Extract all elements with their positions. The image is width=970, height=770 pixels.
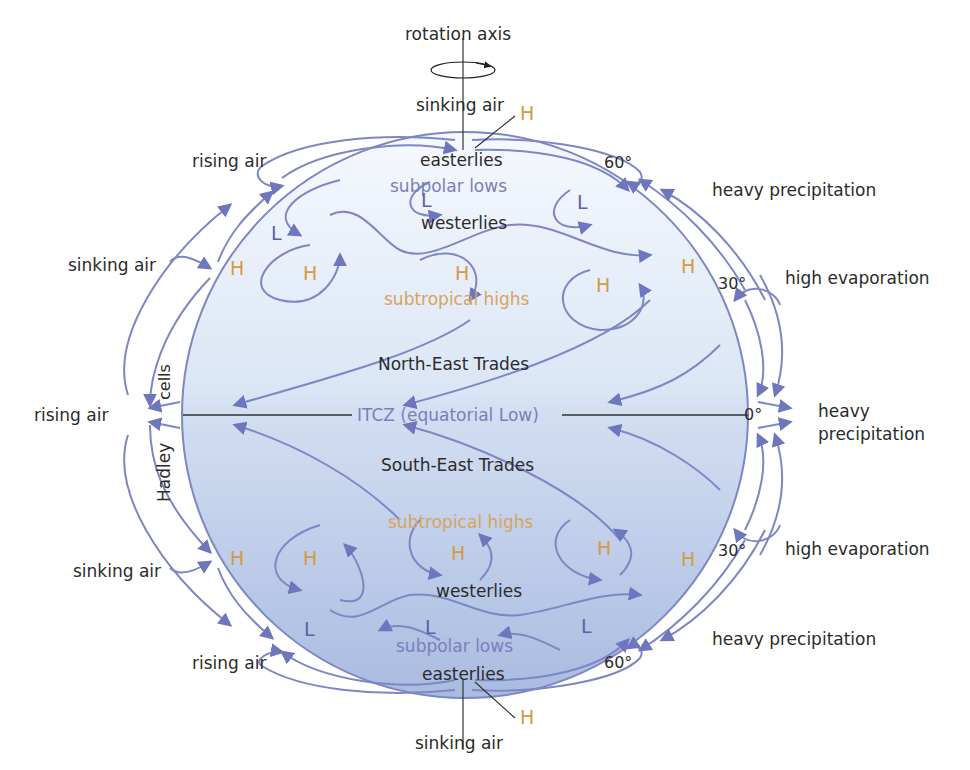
zone-south-easterlies: easterlies [422,664,505,684]
zone-north-westerlies: westerlies [421,213,507,233]
label-hadley-cells-bottom: Hadley [154,443,174,502]
lat-s60: 60° [604,653,632,672]
low-marker: L [577,191,588,213]
high-marker: H [303,262,317,284]
low-marker: L [581,615,592,637]
low-marker: L [421,189,432,211]
low-marker: L [425,616,436,638]
high-marker: H [597,537,611,559]
high-marker: H [451,542,465,564]
zone-itcz: ITCZ (equatorial Low) [357,405,539,425]
zone-south-subtropical-highs: subtropical highs [388,512,534,532]
low-marker: L [271,222,282,244]
bottom-high-marker: H [520,706,534,728]
lat-s30: 30° [718,541,746,560]
high-marker: H [455,262,469,284]
zone-south-east-trades: South-East Trades [381,455,534,475]
zone-south-subpolar-lows: subpolar lows [396,636,513,656]
label-south-high-evaporation: high evaporation [785,539,930,559]
lat-eq: 0° [744,405,762,424]
label-equator-heavy: heavy [818,401,870,421]
top-sinking-air: sinking air [416,95,504,115]
label-hadley-cells-top: cells [155,364,174,400]
rotation-axis-label: rotation axis [405,24,511,44]
high-marker: H [681,548,695,570]
low-marker: L [304,618,315,640]
label-north-rising-air: rising air [192,151,266,171]
circulation-diagram: 60° 30° 0° 30° 60° rotation axis sinking… [0,0,970,770]
zone-north-easterlies: easterlies [420,150,503,170]
high-marker: H [681,255,695,277]
label-north-high-evaporation: high evaporation [785,268,930,288]
label-north-sinking-air: sinking air [68,255,156,275]
lat-n30: 30° [718,274,746,293]
bottom-sinking-air: sinking air [415,733,503,753]
label-south-sinking-air: sinking air [73,561,161,581]
zone-south-westerlies: westerlies [436,581,522,601]
label-south-heavy-precipitation: heavy precipitation [712,629,876,649]
label-south-rising-air: rising air [192,653,266,673]
top-high-marker: H [520,102,534,124]
label-north-heavy-precipitation: heavy precipitation [712,180,876,200]
high-marker: H [596,274,610,296]
high-marker: H [303,547,317,569]
zone-north-subtropical-highs: subtropical highs [384,289,530,309]
lat-n60: 60° [604,153,632,172]
zone-north-subpolar-lows: subpolar lows [390,176,507,196]
label-equator-precipitation: precipitation [818,424,925,444]
label-equator-rising-air: rising air [34,405,108,425]
high-marker: H [230,547,244,569]
zone-north-east-trades: North-East Trades [378,354,529,374]
high-marker: H [230,257,244,279]
